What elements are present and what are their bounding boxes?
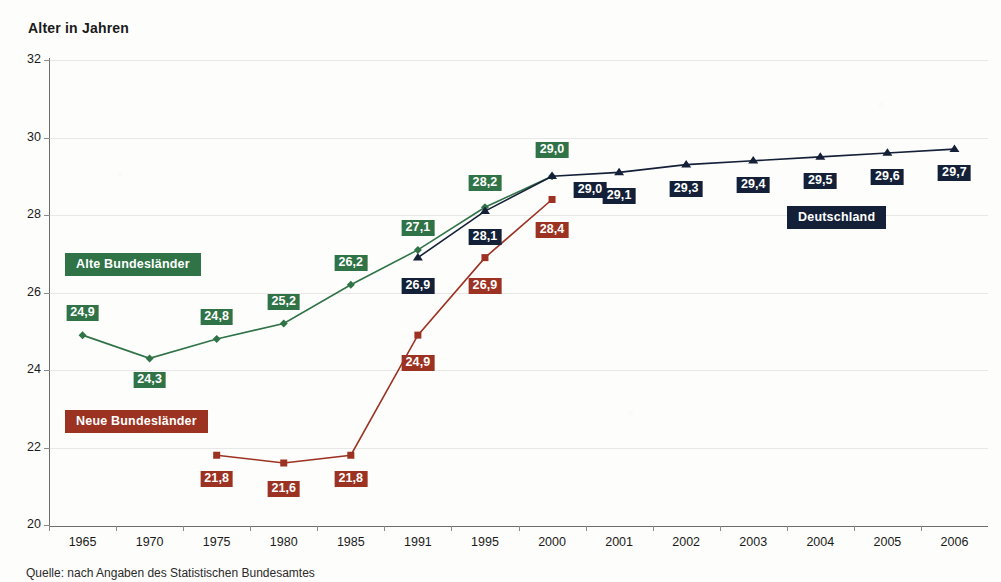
series-line bbox=[217, 200, 552, 464]
series-tag-red: Neue Bundesländer bbox=[65, 410, 208, 433]
x-tick-label: 2005 bbox=[857, 535, 917, 549]
y-tick-label: 22 bbox=[1, 440, 41, 454]
gridline bbox=[49, 60, 988, 61]
source-note: Quelle: nach Angaben des Statistischen B… bbox=[26, 566, 315, 582]
data-point-marker bbox=[547, 172, 557, 179]
x-tick-label: 2003 bbox=[723, 535, 783, 549]
x-tick-mark bbox=[49, 526, 50, 531]
series-tag-green: Alte Bundesländer bbox=[65, 253, 201, 276]
x-tick-mark bbox=[250, 526, 251, 531]
data-point-marker bbox=[79, 331, 87, 339]
y-tick-label: 24 bbox=[1, 362, 41, 376]
data-value-label: 24,9 bbox=[66, 305, 99, 321]
chart-root: Alter in Jahren 20222426283032 196519701… bbox=[0, 0, 1001, 582]
y-tick-label: 26 bbox=[1, 285, 41, 299]
gridline bbox=[49, 293, 988, 294]
x-tick-mark bbox=[854, 526, 855, 531]
x-tick-mark bbox=[586, 526, 587, 531]
y-tick-label: 20 bbox=[1, 517, 41, 531]
y-tick-mark bbox=[44, 370, 50, 371]
data-value-label: 29,6 bbox=[871, 169, 904, 185]
data-point-marker bbox=[882, 148, 892, 155]
x-tick-mark bbox=[451, 526, 452, 531]
x-tick-label: 1975 bbox=[187, 535, 247, 549]
x-tick-mark bbox=[384, 526, 385, 531]
data-point-marker bbox=[815, 152, 825, 159]
data-point-marker bbox=[213, 452, 220, 459]
data-value-label: 24,8 bbox=[200, 309, 233, 325]
data-value-label: 21,8 bbox=[200, 471, 233, 487]
y-tick-mark bbox=[44, 60, 50, 61]
data-point-marker bbox=[549, 196, 556, 203]
x-tick-label: 1980 bbox=[254, 535, 314, 549]
data-value-label: 26,9 bbox=[402, 278, 435, 294]
data-point-marker bbox=[414, 332, 421, 339]
data-value-label: 29,0 bbox=[536, 142, 569, 158]
data-point-marker bbox=[748, 156, 758, 163]
gridline bbox=[49, 138, 988, 139]
y-axis-title: Alter in Jahren bbox=[28, 20, 129, 36]
x-tick-label: 2006 bbox=[924, 535, 984, 549]
data-value-label: 29,1 bbox=[603, 188, 636, 204]
y-tick-label: 32 bbox=[1, 52, 41, 66]
data-value-label: 21,6 bbox=[267, 481, 300, 497]
data-value-label: 27,1 bbox=[402, 220, 435, 236]
x-tick-mark bbox=[921, 526, 922, 531]
gridline bbox=[49, 448, 988, 449]
x-tick-mark bbox=[183, 526, 184, 531]
x-tick-label: 1985 bbox=[321, 535, 381, 549]
data-value-label: 26,2 bbox=[334, 255, 367, 271]
y-tick-label: 30 bbox=[1, 130, 41, 144]
y-tick-mark bbox=[44, 215, 50, 216]
x-tick-label: 2001 bbox=[589, 535, 649, 549]
data-value-label: 24,3 bbox=[133, 372, 166, 388]
data-point-marker bbox=[280, 460, 287, 467]
data-point-marker bbox=[480, 206, 490, 213]
y-tick-label: 28 bbox=[1, 207, 41, 221]
data-point-marker bbox=[481, 254, 488, 261]
x-tick-mark bbox=[653, 526, 654, 531]
x-tick-mark bbox=[116, 526, 117, 531]
x-tick-label: 1970 bbox=[120, 535, 180, 549]
x-tick-label: 1995 bbox=[455, 535, 515, 549]
data-point-marker bbox=[949, 144, 959, 151]
data-value-label: 24,9 bbox=[402, 355, 435, 371]
x-tick-label: 2004 bbox=[790, 535, 850, 549]
series-tag-navy: Deutschland bbox=[787, 206, 886, 229]
data-value-label: 25,2 bbox=[267, 294, 300, 310]
data-point-marker bbox=[146, 354, 154, 362]
y-tick-mark bbox=[44, 448, 50, 449]
data-value-label: 26,9 bbox=[469, 278, 502, 294]
y-tick-mark bbox=[44, 138, 50, 139]
data-point-marker bbox=[213, 335, 221, 343]
data-value-label: 29,7 bbox=[938, 165, 971, 181]
data-point-marker bbox=[481, 203, 489, 211]
x-tick-label: 1965 bbox=[53, 535, 113, 549]
data-point-marker bbox=[347, 281, 355, 289]
x-tick-mark bbox=[317, 526, 318, 531]
data-point-marker bbox=[548, 172, 556, 180]
x-tick-mark bbox=[519, 526, 520, 531]
data-value-label: 28,4 bbox=[536, 222, 569, 238]
data-value-label: 28,1 bbox=[469, 229, 502, 245]
data-point-marker bbox=[681, 160, 691, 167]
y-tick-mark bbox=[44, 293, 50, 294]
data-point-marker bbox=[280, 320, 288, 328]
data-value-label: 29,5 bbox=[804, 173, 837, 189]
data-value-label: 29,0 bbox=[574, 182, 607, 198]
data-point-marker bbox=[347, 452, 354, 459]
data-value-label: 29,3 bbox=[670, 181, 703, 197]
x-tick-mark bbox=[787, 526, 788, 531]
data-value-label: 28,2 bbox=[469, 175, 502, 191]
x-tick-mark bbox=[720, 526, 721, 531]
data-value-label: 21,8 bbox=[334, 471, 367, 487]
x-tick-label: 1991 bbox=[388, 535, 448, 549]
data-point-marker bbox=[414, 246, 422, 254]
x-tick-label: 2000 bbox=[522, 535, 582, 549]
data-value-label: 29,4 bbox=[737, 177, 770, 193]
x-tick-label: 2002 bbox=[656, 535, 716, 549]
data-point-marker bbox=[413, 253, 423, 260]
data-point-marker bbox=[614, 168, 624, 175]
gridline bbox=[49, 370, 988, 371]
